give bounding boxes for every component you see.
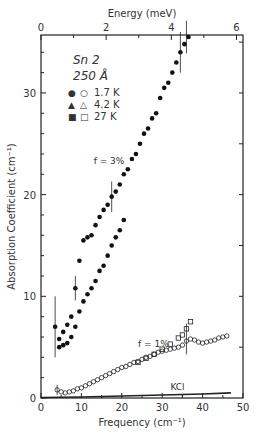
data-point <box>97 269 102 274</box>
thickness-label: 250 Å <box>73 68 108 83</box>
data-point <box>73 325 78 330</box>
data-point <box>142 131 147 136</box>
data-point <box>85 235 90 240</box>
legend-open-marker: △ <box>80 100 87 110</box>
top-tick-label: 4 <box>168 22 174 33</box>
data-point <box>57 337 62 342</box>
data-point <box>81 299 86 304</box>
legend-label: 4.2 K <box>94 99 120 110</box>
data-point <box>122 218 127 223</box>
data-point <box>81 238 86 243</box>
data-point <box>61 343 66 348</box>
data-point <box>180 343 184 347</box>
data-point <box>182 42 187 47</box>
data-point <box>105 253 110 258</box>
legend-label: 27 K <box>94 111 117 122</box>
data-point <box>188 320 192 324</box>
x-tick-label: 20 <box>115 402 128 413</box>
data-point <box>77 258 82 263</box>
legend-filled-marker: ▲ <box>68 100 75 110</box>
data-point <box>186 35 191 40</box>
data-point <box>89 233 94 238</box>
data-point <box>122 172 127 177</box>
y-tick-label: 20 <box>23 190 36 201</box>
data-point <box>134 152 139 157</box>
data-point <box>69 335 74 340</box>
x-axis-title: Frequency (cm⁻¹) <box>98 417 185 428</box>
legend-open-marker: □ <box>80 112 89 122</box>
y-axis-title: Absorption Coefficient (cm⁻¹) <box>6 143 17 290</box>
data-point <box>97 215 102 220</box>
data-point <box>85 292 90 297</box>
annotation: f = 1% <box>138 339 169 349</box>
data-point <box>166 80 171 85</box>
data-point <box>77 309 82 314</box>
x-tick-label: 40 <box>196 402 209 413</box>
data-point <box>57 345 62 350</box>
legend-open-marker: ○ <box>80 88 88 98</box>
data-point <box>113 235 118 240</box>
y-tick-label: 30 <box>23 88 36 99</box>
x-tick-label: 10 <box>75 402 88 413</box>
data-point <box>138 141 143 146</box>
data-point <box>174 60 179 65</box>
data-point <box>162 86 167 91</box>
x-tick-label: 30 <box>156 402 169 413</box>
data-point <box>130 157 135 162</box>
y-tick-label: 0 <box>30 393 36 404</box>
data-point <box>113 189 118 194</box>
data-point <box>158 96 163 101</box>
legend-label: 1.7 K <box>94 87 120 98</box>
data-point <box>93 223 98 228</box>
data-point <box>61 330 66 335</box>
data-point <box>93 279 98 284</box>
data-point <box>154 111 159 116</box>
annotation: KCl <box>170 382 184 392</box>
y-tick-label: 10 <box>23 291 36 302</box>
data-point <box>225 334 229 338</box>
top-tick-label: 2 <box>103 22 109 33</box>
data-point <box>105 203 110 208</box>
data-point <box>150 116 155 121</box>
data-point <box>109 243 114 248</box>
sample-label: Sn 2 <box>73 53 100 67</box>
annotation: f = 3% <box>94 156 125 166</box>
absorption-chart: 0102030405001020300246Frequency (cm⁻¹)En… <box>0 0 256 432</box>
x-tick-label: 0 <box>38 402 44 413</box>
legend-filled-marker: ● <box>68 88 76 98</box>
top-tick-label: 6 <box>233 22 239 33</box>
data-point <box>101 264 106 269</box>
x-tick-label: 50 <box>237 402 250 413</box>
data-point <box>65 322 70 327</box>
data-point <box>126 167 131 172</box>
data-points <box>41 21 231 398</box>
data-point <box>117 228 122 233</box>
data-point <box>146 126 151 131</box>
data-point <box>89 286 94 291</box>
top-axis-title: Energy (meV) <box>108 8 177 19</box>
top-tick-label: 0 <box>38 22 44 33</box>
legend-filled-marker: ■ <box>68 112 77 122</box>
data-point <box>101 208 106 213</box>
data-point <box>65 341 70 346</box>
data-point <box>117 182 122 187</box>
data-point <box>69 314 74 319</box>
data-point <box>170 70 175 75</box>
